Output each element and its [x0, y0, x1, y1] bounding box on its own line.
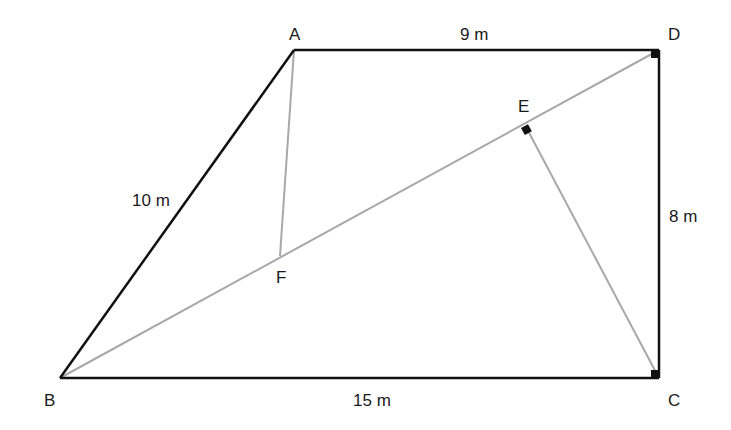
vertex-label-e: E — [518, 97, 529, 116]
measure-dc: 8 m — [669, 207, 697, 226]
measure-bc: 15 m — [353, 391, 391, 410]
diagonal-bd — [60, 50, 659, 378]
right-angle-marker-d — [651, 50, 659, 58]
vertex-label-a: A — [289, 25, 301, 44]
vertex-label-c: C — [668, 391, 680, 410]
measure-ad: 9 m — [460, 25, 488, 44]
vertex-label-b: B — [44, 391, 55, 410]
right-angle-marker-c — [651, 370, 659, 378]
trapezoid-diagram: A D E F B C 9 m 10 m 8 m 15 m — [0, 0, 731, 430]
edge-ba — [60, 50, 294, 378]
measure-ab: 10 m — [132, 191, 170, 210]
vertex-label-f: F — [276, 268, 286, 287]
segment-ce — [526, 127, 659, 378]
vertex-label-d: D — [668, 25, 680, 44]
segment-af — [280, 50, 294, 256]
